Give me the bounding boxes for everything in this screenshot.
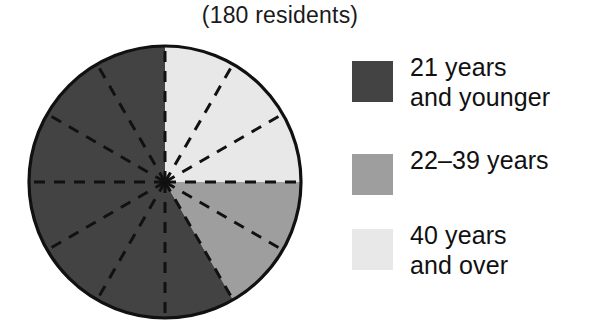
legend-item-21-and-younger[interactable]: 21 years and younger: [352, 52, 550, 112]
pie-svg: [27, 43, 303, 321]
pie-chart-figure: (180 residents) 21 years and younger 22–…: [0, 0, 604, 330]
chart-legend: 21 years and younger 22–39 years 40 year…: [352, 52, 602, 324]
swatch-22-39-icon: [352, 154, 393, 195]
legend-item-22-39[interactable]: 22–39 years: [352, 145, 549, 195]
legend-label-21-and-younger: 21 years and younger: [410, 52, 550, 112]
legend-label-40-and-over: 40 years and over: [410, 220, 508, 280]
pie-chart-graphic: [27, 43, 303, 321]
chart-title: (180 residents): [120, 2, 440, 28]
pie-slice-1[interactable]: [165, 46, 301, 182]
swatch-21-and-younger-icon: [352, 61, 393, 102]
swatch-40-and-over-icon: [352, 229, 393, 270]
legend-label-22-39: 22–39 years: [410, 145, 549, 175]
legend-item-40-and-over[interactable]: 40 years and over: [352, 220, 508, 280]
